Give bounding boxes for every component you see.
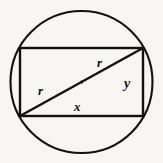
figure-canvas [0,0,163,163]
geometry-figure: r r x y [0,0,163,163]
label-radius-lower: r [38,84,43,97]
label-radius-upper: r [97,56,102,69]
label-side-x: x [74,100,81,113]
label-side-y: y [124,77,130,91]
center-point-marker [80,80,83,83]
